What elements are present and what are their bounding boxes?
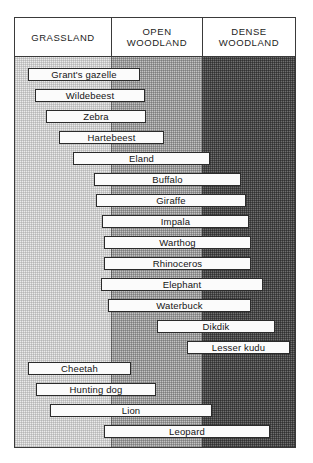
- species-bar: Leopard: [104, 425, 270, 438]
- chart-frame: GRASSLAND OPEN WOODLAND DENSE WOODLAND G…: [14, 17, 296, 448]
- species-bar: Cheetah: [28, 362, 131, 375]
- species-bar: Buffalo: [94, 173, 241, 186]
- habitat-range-chart: GRASSLAND OPEN WOODLAND DENSE WOODLAND G…: [0, 0, 313, 463]
- species-bar: Impala: [102, 215, 249, 228]
- header-cell-grassland: GRASSLAND: [15, 18, 111, 56]
- species-bar: Giraffe: [96, 194, 246, 207]
- species-bar: Warthog: [104, 236, 251, 249]
- species-bar: Grant's gazelle: [28, 68, 140, 81]
- habitat-header-row: GRASSLAND OPEN WOODLAND DENSE WOODLAND: [15, 18, 295, 57]
- species-bar: Hunting dog: [36, 383, 156, 396]
- species-bar: Elephant: [101, 278, 263, 291]
- species-bar: Dikdik: [157, 320, 275, 333]
- species-bar: Wildebeest: [35, 89, 145, 102]
- species-bar: Hartebeest: [59, 131, 164, 144]
- habitat-band-dense-woodland: [202, 57, 295, 447]
- species-bar: Lion: [50, 404, 212, 417]
- species-bar: Zebra: [46, 110, 146, 123]
- species-bar: Eland: [73, 152, 210, 165]
- species-bar: Rhinoceros: [104, 257, 251, 270]
- header-cell-open-woodland: OPEN WOODLAND: [111, 18, 202, 56]
- plot-area: Grant's gazelleWildebeestZebraHartebeest…: [15, 57, 295, 447]
- column-divider-open-dense: [202, 57, 203, 447]
- header-cell-dense-woodland: DENSE WOODLAND: [202, 18, 295, 56]
- species-bar: Waterbuck: [108, 299, 251, 312]
- species-bar: Lesser kudu: [187, 341, 290, 354]
